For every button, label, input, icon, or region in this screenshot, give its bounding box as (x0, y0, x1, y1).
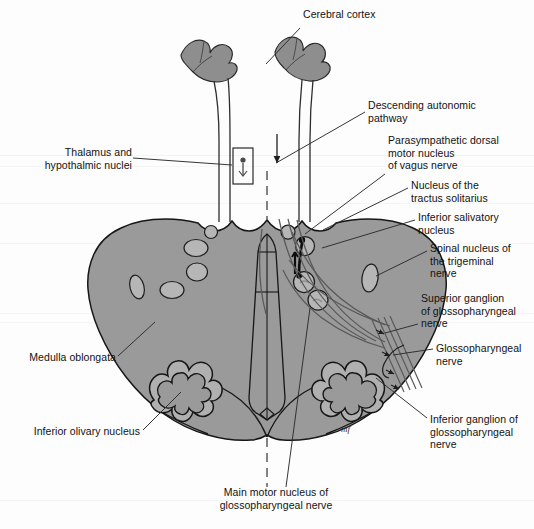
label-thalamus-and-hypothalmic-nuclei: Thalamus and hypothalmic nuclei (20, 146, 132, 171)
label-glossopharyngeal-nerve: Glossopharyngeal nerve (436, 342, 521, 367)
label-superior-ganglion-of-glossopharyngeal-nerve: Superior ganglion of glossopharyngeal ne… (421, 292, 516, 330)
leader-thalamus (133, 158, 232, 165)
label-inferior-ganglion-of-glossopharyngeal-nerve: Inferior ganglion of glossopharyngeal ne… (430, 413, 518, 451)
label-parasympathetic-dorsal-motor-nucleus-vagus: Parasympathetic dorsal motor nucleus of … (388, 134, 499, 172)
artist-signature: mf (341, 424, 350, 434)
cerebral-cortex-left-gyrus (181, 40, 237, 82)
label-inferior-salivatory-nucleus: Inferior salivatory nucleus (418, 211, 499, 236)
label-main-motor-nucleus-of-glossopharyngeal-nerve: Main motor nucleus of glossopharyngeal n… (186, 486, 366, 511)
cerebral-cortex-right-gyrus (275, 37, 330, 81)
label-spinal-nucleus-of-the-trigeminal-nerve: Spinal nucleus of the trigeminal nerve (430, 242, 511, 280)
label-descending-autonomic-pathway: Descending autonomic pathway (368, 99, 476, 124)
label-nucleus-of-the-tractus-solitarius: Nucleus of the tractus solitarius (411, 179, 488, 204)
label-cerebral-cortex: Cerebral cortex (303, 8, 376, 21)
anatomical-diagram-figure: Cerebral cortex Descending autonomic pat… (0, 0, 534, 529)
label-medulla-oblongata: Medulla oblongata (4, 351, 116, 364)
label-inferior-olivary-nucleus: Inferior olivary nucleus (8, 425, 140, 438)
